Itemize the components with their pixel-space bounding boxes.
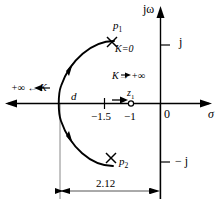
dimension-arrowhead-right — [150, 188, 160, 194]
dimension-arrowhead-left — [60, 188, 70, 194]
imag-tick-label-positive-j: j — [179, 36, 182, 48]
pole-label-p2: p2 — [119, 156, 128, 170]
zero-marker-z1 — [128, 101, 133, 106]
real-axis-arrow-left — [5, 100, 17, 108]
pole-label-p1: p1 — [113, 20, 122, 34]
annotation-gain-at-pole: K=0 — [115, 44, 133, 54]
imag-tick-label-negative-j: − j — [175, 155, 188, 167]
zero-label-z1-subscript: 1 — [131, 93, 134, 100]
annotation-gain-to-infinity: K→ +∞ — [112, 71, 145, 81]
pole-label-p2-subscript: 2 — [125, 161, 129, 170]
annotation-breakaway-point: d — [71, 91, 77, 102]
pole-label-p1-subscript: 1 — [119, 25, 123, 34]
dimension-value-label: 2.12 — [96, 178, 115, 189]
real-tick-label-minus-1: −1 — [124, 111, 136, 122]
zero-label-z1: z1 — [127, 88, 134, 101]
annotation-gain-left-branch: +∞ ← K — [11, 83, 47, 93]
imaginary-axis-arrow-up — [157, 6, 165, 18]
pole-marker-p2 — [106, 153, 116, 163]
real-axis-label: σ — [208, 108, 214, 120]
imaginary-axis-label: jω — [143, 3, 154, 15]
origin-label: 0 — [164, 108, 170, 120]
root-locus-figure: jω j − j σ 0 −1.5 −1 p1 p2 z1 K=0 K→ +∞ … — [0, 0, 224, 208]
real-tick-label-minus-1-5: −1.5 — [91, 111, 111, 122]
